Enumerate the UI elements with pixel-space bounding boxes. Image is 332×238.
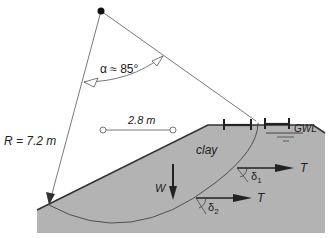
angle-arrowhead-left-icon <box>84 78 98 87</box>
material-label: clay <box>196 143 218 157</box>
spacing-label: 2.8 m <box>127 114 156 126</box>
gwl-label: GWL <box>294 123 317 134</box>
spacing-end-left-icon <box>100 127 106 133</box>
spacing-end-right-icon <box>170 127 176 133</box>
radius-line-toe <box>49 11 101 205</box>
clay-slope-body <box>37 125 325 233</box>
angle-arrowhead-right-icon <box>152 56 163 66</box>
weight-label: W <box>155 182 167 194</box>
radius-label: R = 7.2 m <box>4 134 56 148</box>
angle-label: α ≈ 85° <box>100 62 139 76</box>
slope-stability-diagram: α ≈ 85° 2.8 m R = 7.2 m GWL clay W T δ1 … <box>0 0 332 238</box>
circle-center-dot <box>98 8 105 15</box>
